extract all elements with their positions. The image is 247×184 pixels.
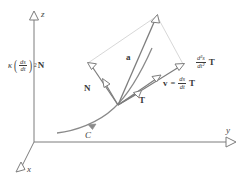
z-axis-arrowhead-icon: [30, 11, 39, 20]
x-axis-line: [22, 142, 34, 166]
velocity-vector-symbol: v: [163, 79, 168, 88]
fraction-denominator: dt²: [196, 63, 206, 70]
tangent-vector-symbol: T: [209, 58, 215, 67]
normal-vector-symbol: N: [38, 61, 45, 70]
curve-label-C: C: [85, 131, 91, 140]
construction-line-apex-to-tangential: [157, 16, 183, 64]
ds-dt-fraction: ds dt: [19, 59, 27, 73]
fraction-denominator: dt: [178, 84, 186, 91]
unit-tangent-symbol: T: [189, 79, 195, 88]
unit-normal-arrowhead-icon: [103, 79, 111, 88]
vectors-group: [88, 15, 185, 106]
equals-sign: =: [171, 79, 176, 88]
ds-dt-fraction: ds dt: [178, 76, 186, 90]
tangential-component-label: d²s dt² T: [196, 55, 215, 69]
y-axis-arrowhead-icon: [226, 137, 236, 147]
figure-canvas: z y x C N T a κ ( ds dt ) 2 N d²s dt² T …: [0, 0, 247, 184]
d2s-dt2-fraction: d²s dt²: [196, 55, 206, 69]
exponent-two: 2: [34, 63, 37, 69]
normal-component-arrowhead-icon: [88, 63, 97, 70]
normal-component-label: κ ( ds dt ) 2 N: [8, 58, 44, 73]
y-axis-label: y: [226, 126, 230, 135]
unit-normal-label: N: [84, 84, 91, 93]
x-axis-label: x: [27, 165, 31, 174]
fraction-denominator: dt: [19, 66, 27, 73]
parallelogram-construction: [88, 16, 183, 64]
axes-group: [16, 11, 236, 172]
z-axis-label: z: [41, 10, 45, 19]
unit-tangent-label: T: [139, 96, 145, 105]
velocity-label: v = ds dt T: [163, 76, 195, 90]
kappa-symbol: κ: [8, 61, 12, 70]
diagram-svg: [0, 0, 247, 184]
curve-direction-arrowhead-icon: [88, 124, 96, 130]
left-paren: (: [14, 58, 17, 73]
acceleration-label: a: [126, 53, 131, 62]
tangential-component-arrowhead-icon: [175, 64, 185, 71]
right-paren: ): [29, 58, 32, 73]
